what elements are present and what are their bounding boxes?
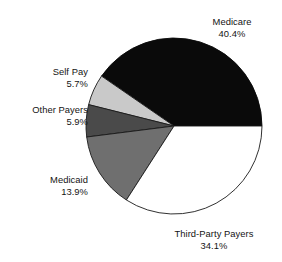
pie-chart-figure: Medicare 40.4% Self Pay 5.7% Other Payer… bbox=[0, 0, 282, 262]
pie-label-medicaid: Medicaid 13.9% bbox=[6, 174, 88, 198]
pie-label-other-payers-percent: 5.9% bbox=[2, 116, 88, 128]
pie-label-self-pay-percent: 5.7% bbox=[10, 78, 88, 90]
pie-label-third-party-payers-percent: 34.1% bbox=[148, 240, 280, 252]
pie-label-medicaid-name: Medicaid bbox=[6, 174, 88, 186]
pie-label-self-pay: Self Pay 5.7% bbox=[10, 66, 88, 90]
pie-label-other-payers-name: Other Payers bbox=[2, 104, 88, 116]
pie-label-third-party-payers: Third-Party Payers 34.1% bbox=[148, 228, 280, 252]
pie-slice-group bbox=[86, 38, 262, 214]
pie-label-medicare-percent: 40.4% bbox=[186, 28, 278, 40]
pie-label-medicare: Medicare 40.4% bbox=[186, 16, 278, 40]
pie-label-third-party-payers-name: Third-Party Payers bbox=[148, 228, 280, 240]
pie-label-medicare-name: Medicare bbox=[186, 16, 278, 28]
pie-label-self-pay-name: Self Pay bbox=[10, 66, 88, 78]
pie-label-other-payers: Other Payers 5.9% bbox=[2, 104, 88, 128]
pie-label-medicaid-percent: 13.9% bbox=[6, 186, 88, 198]
